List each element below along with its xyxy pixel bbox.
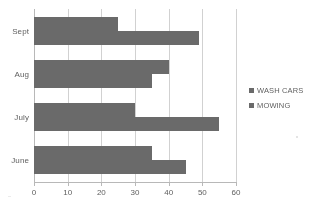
legend-item-mowing[interactable]: MOWING (249, 101, 311, 110)
bar-wash-cars (34, 103, 236, 117)
bar-mowing (34, 31, 236, 45)
x-tick-label-10: 10 (63, 188, 72, 197)
bar-group (34, 52, 236, 95)
category-label-july: July (14, 113, 29, 122)
bar-segment (34, 74, 152, 88)
bar-groups (34, 9, 236, 182)
x-tick-60 (236, 182, 237, 186)
plot-area (34, 9, 236, 182)
scan-speckle (8, 196, 11, 197)
x-tick-label-50: 50 (198, 188, 207, 197)
bar-mowing (34, 160, 236, 174)
bar-group (34, 9, 236, 52)
x-axis-tick-labels: 0102030405060 (34, 188, 236, 202)
bar-segment (34, 103, 135, 117)
bar-segment (34, 146, 152, 160)
x-tick-10 (68, 182, 69, 186)
x-tick-0 (34, 182, 35, 186)
x-tick-40 (169, 182, 170, 186)
x-tick-30 (135, 182, 136, 186)
bar-wash-cars (34, 60, 236, 74)
x-tick-label-20: 20 (97, 188, 106, 197)
bar-wash-cars (34, 146, 236, 160)
bar-segment (34, 60, 169, 74)
bar-group (34, 96, 236, 139)
legend-swatch-icon (249, 103, 254, 108)
category-label-june: June (11, 156, 29, 165)
bar-segment (34, 160, 186, 174)
x-tick-label-30: 30 (131, 188, 140, 197)
legend-label: WASH CARS (257, 86, 304, 95)
bar-group (34, 139, 236, 182)
bar-segment (34, 117, 219, 131)
legend-item-wash-cars[interactable]: WASH CARS (249, 86, 311, 95)
x-tick-50 (202, 182, 203, 186)
bar-segment (34, 31, 199, 45)
category-axis-labels: SeptAugJulyJune (0, 9, 32, 182)
scan-speckle (296, 136, 298, 138)
x-tick-20 (101, 182, 102, 186)
gridline-60 (236, 9, 237, 182)
x-tick-label-0: 0 (32, 188, 36, 197)
bar-segment (34, 17, 118, 31)
bar-wash-cars (34, 17, 236, 31)
bar-mowing (34, 74, 236, 88)
bar-chart: SeptAugJulyJune 0102030405060 WASH CARSM… (0, 0, 311, 211)
legend: WASH CARSMOWING (249, 86, 311, 116)
x-axis-ticks (34, 182, 236, 186)
category-label-sept: Sept (12, 26, 29, 35)
legend-label: MOWING (257, 101, 290, 110)
bar-mowing (34, 117, 236, 131)
x-tick-label-40: 40 (164, 188, 173, 197)
category-label-aug: Aug (14, 69, 29, 78)
legend-swatch-icon (249, 88, 254, 93)
x-tick-label-60: 60 (232, 188, 241, 197)
